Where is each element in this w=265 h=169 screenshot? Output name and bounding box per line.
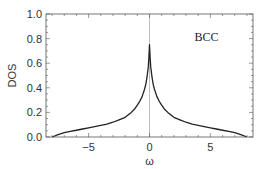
- y-axis-label: DOS: [6, 64, 18, 88]
- x-tick-labels: −505: [82, 141, 213, 153]
- x-axis-label: ω: [145, 155, 154, 167]
- dos-chart: 0.00.20.40.60.81.0 −505 DOS ω BCC: [0, 0, 265, 169]
- annotations: BCC: [195, 30, 219, 44]
- y-tick-label: 1.0: [27, 8, 42, 20]
- x-tick-label: −5: [82, 141, 95, 153]
- lattice-annotation: BCC: [195, 30, 219, 44]
- x-tick-label: 5: [207, 141, 213, 153]
- y-tick-label: 0.0: [27, 131, 42, 143]
- y-tick-label: 0.4: [27, 82, 42, 94]
- x-tick-label: 0: [146, 141, 152, 153]
- y-tick-labels: 0.00.20.40.60.81.0: [27, 8, 42, 143]
- y-tick-label: 0.6: [27, 57, 42, 69]
- y-tick-label: 0.8: [27, 33, 42, 45]
- y-tick-label: 0.2: [27, 106, 42, 118]
